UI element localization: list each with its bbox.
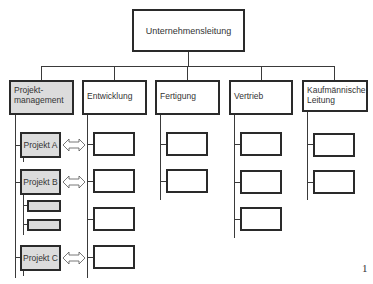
page-number: 1 bbox=[362, 262, 368, 274]
fertigung-unit-1 bbox=[166, 132, 208, 156]
entwicklung-unit-4 bbox=[93, 245, 135, 269]
dept-box-entwicklung: Entwicklung bbox=[82, 80, 147, 115]
double-arrow-icon-a bbox=[62, 138, 86, 152]
project-b-sub-spine bbox=[23, 195, 24, 235]
dept-label-line1: Projekt- bbox=[14, 85, 72, 95]
dept-connector-1 bbox=[41, 66, 42, 80]
dept-label-line2: management bbox=[14, 95, 72, 105]
project-box-c: Projekt C bbox=[20, 245, 61, 271]
dept-box-projektmanagement: Projekt- management bbox=[9, 80, 74, 115]
dept-connector-2 bbox=[114, 66, 115, 80]
entwicklung-spine-line bbox=[87, 115, 88, 278]
department-bus-line bbox=[41, 66, 335, 67]
dept-label-vertrieb: Vertrieb bbox=[231, 82, 291, 101]
dept-box-vertrieb: Vertrieb bbox=[229, 80, 293, 115]
double-arrow-icon-c bbox=[62, 251, 86, 265]
dept-connector-5 bbox=[334, 66, 335, 80]
vertrieb-unit-2 bbox=[240, 170, 282, 194]
vertrieb-unit-3 bbox=[240, 207, 282, 231]
dept-label-entwicklung: Entwicklung bbox=[84, 82, 145, 101]
root-connector bbox=[188, 52, 189, 66]
project-box-b: Projekt B bbox=[20, 169, 61, 195]
dept-box-fertigung: Fertigung bbox=[155, 80, 220, 115]
root-box-unternehmensleitung: Unternehmensleitung bbox=[132, 9, 245, 52]
entwicklung-unit-3 bbox=[93, 207, 135, 231]
project-label-c: Projekt C bbox=[22, 247, 59, 269]
project-b-subunit-1 bbox=[27, 200, 61, 212]
dept-label-fertigung: Fertigung bbox=[157, 82, 218, 101]
dept-box-kaufmaennische-leitung: Kaufmännische Leitung bbox=[302, 80, 368, 112]
double-arrow-icon-b bbox=[62, 175, 86, 189]
kaufmaennisch-unit-1 bbox=[313, 133, 355, 157]
dept-label-line1: Kaufmännische bbox=[307, 85, 366, 95]
dept-connector-3 bbox=[187, 66, 188, 80]
kaufmaennisch-spine-line bbox=[307, 112, 308, 200]
dept-label-line2: Leitung bbox=[307, 95, 366, 105]
dept-connector-4 bbox=[261, 66, 262, 80]
pm-spine-line bbox=[15, 115, 16, 278]
entwicklung-unit-1 bbox=[93, 132, 135, 156]
project-c-stub bbox=[23, 271, 24, 276]
dept-label-projektmanagement: Projekt- management bbox=[11, 82, 72, 105]
entwicklung-unit-2 bbox=[93, 169, 135, 193]
project-a-stub bbox=[23, 158, 24, 162]
root-label: Unternehmensleitung bbox=[134, 11, 243, 50]
project-label-b: Projekt B bbox=[22, 171, 59, 193]
project-box-a: Projekt A bbox=[20, 132, 61, 158]
dept-label-kaufmaennische-leitung: Kaufmännische Leitung bbox=[304, 82, 366, 105]
kaufmaennisch-unit-2 bbox=[313, 170, 355, 194]
fertigung-spine-line bbox=[160, 115, 161, 200]
project-label-a: Projekt A bbox=[22, 134, 59, 156]
fertigung-unit-2 bbox=[166, 169, 208, 193]
vertrieb-unit-1 bbox=[240, 132, 282, 156]
project-b-subunit-2 bbox=[27, 219, 61, 231]
